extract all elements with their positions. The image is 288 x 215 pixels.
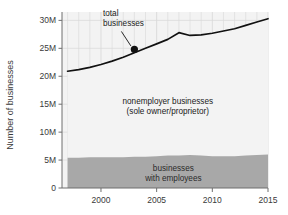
y-tick-label: 5M [44, 155, 56, 165]
chart-figure: 05M10M15M20M25M30M 2000200520102015 Numb… [0, 0, 288, 215]
y-axis-title: Number of businesses [5, 60, 15, 150]
x-tick-label: 2005 [147, 195, 166, 205]
business-counts-area-chart: 05M10M15M20M25M30M 2000200520102015 Numb… [0, 0, 288, 215]
data-point-marker [131, 46, 138, 53]
y-tick-label: 0 [51, 183, 56, 193]
nonemployer-annotation-line1: nonemployer businesses [122, 97, 213, 106]
nonemployer-annotation-line2: (sole owner/proprietor) [127, 107, 210, 116]
x-tick-label: 2010 [203, 195, 222, 205]
y-tick-label: 15M [39, 99, 56, 109]
y-tick-label: 20M [39, 71, 56, 81]
y-tick-label: 30M [39, 15, 56, 25]
y-tick-label: 10M [39, 127, 56, 137]
x-tick-label: 2015 [259, 195, 278, 205]
y-tick-label: 25M [39, 43, 56, 53]
total-businesses-annotation-line1: total [103, 9, 119, 18]
employer-annotation-line1: businesses [153, 164, 194, 173]
x-tick-label: 2000 [92, 195, 111, 205]
employer-annotation-line2: with employees [144, 174, 201, 183]
total-businesses-annotation-line2: businesses [103, 19, 144, 28]
nonemployer-annotation: nonemployer businesses (sole owner/propr… [122, 97, 213, 116]
employer-annotation: businesses with employees [144, 164, 201, 183]
